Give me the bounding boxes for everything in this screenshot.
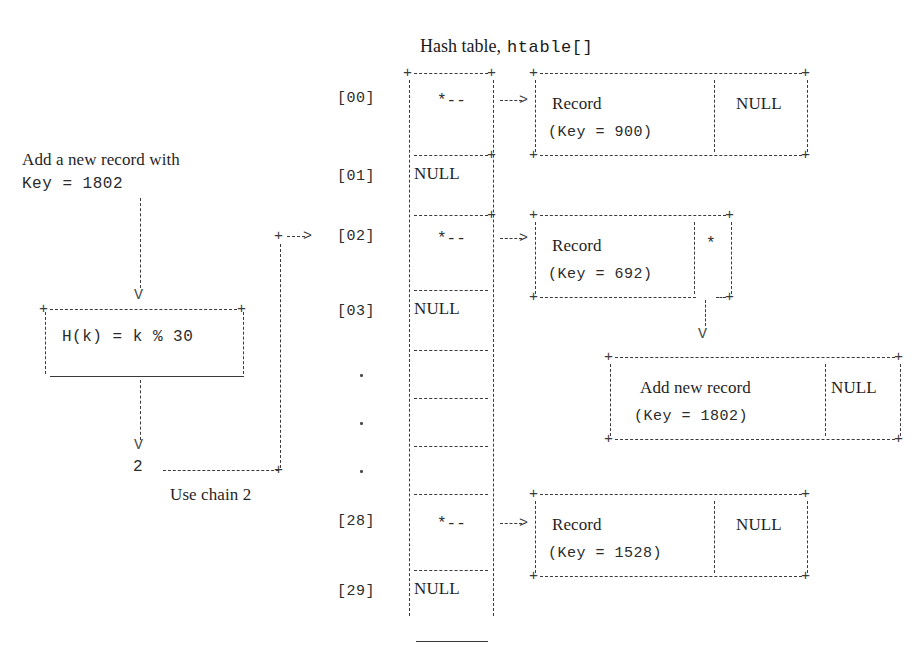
record-new-corner-br: + [894, 432, 903, 447]
record-new-right-border [900, 364, 901, 436]
record-new-key: (Key = 1802) [634, 408, 748, 425]
record-02-chain-arrowhead-icon: V [698, 327, 707, 342]
record-02-pointer-divider [694, 222, 695, 294]
table-bottom-border [416, 641, 488, 642]
intro-arrowhead-icon: V [134, 288, 143, 303]
intro-line-2: Key = 1802 [22, 175, 123, 193]
record-new-pointer-divider [825, 364, 826, 436]
bucket-02-corner-tl: + [274, 229, 283, 244]
record-00-corner-br: + [801, 148, 810, 163]
record-00-pointer-divider [714, 80, 715, 152]
bucket-ellipsis-3 [360, 470, 363, 473]
record-02-bottom-border [540, 297, 696, 298]
table-left-border [409, 80, 410, 616]
bucket-index-02: [02] [337, 228, 375, 245]
hash-result-value: 2 [133, 458, 143, 476]
record-28-top-border [540, 494, 802, 495]
record-28-corner-br: + [801, 569, 810, 584]
record-new-corner-tl: + [604, 350, 613, 365]
bucket-cell-00-pointer: *-- [437, 93, 466, 109]
figure-canvas: Hash table,htable[] Add a new record wit… [0, 0, 917, 656]
record-02-corner-tr: + [725, 208, 734, 223]
hash-box-right-border [243, 312, 244, 374]
record-02-top-border [540, 215, 726, 216]
use-chain-caption: Use chain 2 [170, 485, 251, 505]
table-sep-dot1-dot2 [414, 398, 488, 399]
record-00-right-border [807, 80, 808, 152]
record-00-corner-tl: + [529, 66, 538, 81]
bucket-index-00: [00] [337, 90, 375, 107]
bucket-02-arrowhead-icon: > [303, 229, 312, 244]
bucket-index-01: [01] [337, 168, 375, 185]
link-00-arrowhead-icon: > [519, 93, 528, 108]
bucket-cell-29-null: NULL [414, 579, 460, 599]
table-sep-01-02-plus: + [487, 208, 496, 223]
hash-to-result-connector [140, 380, 141, 440]
table-sep-01-02 [414, 215, 488, 216]
record-new-bottom-border [615, 439, 895, 440]
record-28-next: NULL [736, 515, 782, 535]
record-02-left-border [535, 222, 536, 294]
intro-to-hash-connector [140, 198, 141, 288]
record-00-top-border [540, 73, 802, 74]
record-new-title: Add new record [640, 378, 751, 398]
record-02-title: Record [552, 236, 602, 256]
figure-title: Hash table,htable[] [404, 18, 593, 75]
table-sep-28-29 [414, 570, 488, 571]
figure-title-mono: htable[] [501, 38, 593, 57]
table-corner-tr: + [487, 66, 496, 81]
intro-line-1: Add a new record with [22, 150, 180, 170]
record-new-corner-tr: + [894, 350, 903, 365]
record-02-right-border [731, 222, 732, 294]
record-02-corner-br: + [725, 290, 734, 305]
table-sep-03-dot1 [414, 350, 488, 351]
bucket-index-03: [03] [337, 303, 375, 320]
table-sep-00-01 [414, 155, 488, 156]
result-line-corner-br: + [274, 463, 283, 478]
record-new-corner-bl: + [604, 432, 613, 447]
bucket-index-28: [28] [337, 513, 375, 530]
hash-box-top-border [50, 309, 237, 310]
record-02-key: (Key = 692) [548, 266, 653, 283]
result-arrowhead-icon: V [134, 438, 143, 453]
hash-box-corner-tr: + [237, 302, 246, 317]
record-28-corner-tl: + [529, 487, 538, 502]
hash-box-left-border [45, 312, 46, 374]
record-28-corner-bl: + [529, 569, 538, 584]
hash-box-corner-tl: + [39, 302, 48, 317]
record-28-bottom-border [540, 576, 802, 577]
record-28-pointer-divider [714, 501, 715, 573]
record-00-next: NULL [736, 94, 782, 114]
table-top-border [414, 73, 488, 74]
record-02-chain-connector [705, 300, 706, 326]
hash-function-formula: H(k) = k % 30 [62, 328, 193, 346]
record-new-left-border [610, 364, 611, 436]
figure-title-serif: Hash table, [420, 36, 501, 56]
record-28-corner-tr: + [801, 487, 810, 502]
bucket-index-29: [29] [337, 583, 375, 600]
record-28-left-border [535, 501, 536, 573]
link-28-arrowhead-icon: > [519, 516, 528, 531]
record-28-right-border [807, 501, 808, 573]
record-new-next: NULL [831, 378, 877, 398]
table-sep-02-03 [414, 290, 488, 291]
link-02-arrowhead-icon: > [519, 231, 528, 246]
bucket-02-riser [280, 244, 281, 468]
bucket-cell-03-null: NULL [414, 299, 460, 319]
bucket-ellipsis-1 [360, 374, 363, 377]
hash-box-bottom-border [50, 376, 244, 377]
result-to-bucket-line [163, 470, 279, 471]
bucket-cell-01-null: NULL [414, 164, 460, 184]
bucket-cell-28-pointer: *-- [437, 516, 466, 532]
bucket-ellipsis-2 [360, 422, 363, 425]
record-00-title: Record [552, 94, 602, 114]
record-02-next: * [706, 236, 716, 252]
record-00-key: (Key = 900) [548, 124, 653, 141]
record-02-corner-bl: + [529, 290, 538, 305]
record-02-corner-tl: + [529, 208, 538, 223]
table-sep-00-01-plus: + [487, 148, 496, 163]
table-sep-dot2-dot3 [414, 446, 488, 447]
record-00-corner-bl: + [529, 148, 538, 163]
table-corner-tl: + [403, 66, 412, 81]
record-28-key: (Key = 1528) [548, 545, 662, 562]
